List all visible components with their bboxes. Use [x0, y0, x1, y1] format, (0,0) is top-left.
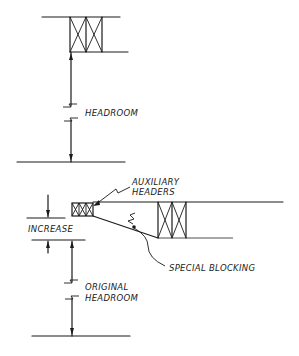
headroom-label: HEADROOM [85, 108, 138, 118]
increase-label: INCREASE [28, 224, 73, 234]
original-headroom-label-line2: HEADROOM [85, 293, 138, 303]
auxiliary-headers-label-line2: HEADERS [132, 187, 175, 197]
arrowhead-up-icon [46, 241, 50, 248]
arrowhead-down-icon [46, 210, 50, 217]
main-header-box [158, 202, 186, 238]
headroom-dimension-line [63, 52, 78, 162]
arrowhead-up-icon [70, 241, 74, 248]
bottom-header-section [27, 187, 283, 336]
break-mark [128, 213, 135, 224]
original-headroom-label-line1: ORIGINAL [85, 282, 129, 292]
special-blocking-slope [93, 216, 158, 238]
special-blocking-leader [134, 228, 165, 266]
auxiliary-header-box [72, 203, 93, 216]
arrowhead-down-icon [70, 328, 74, 335]
top-header-box [70, 17, 102, 52]
original-headroom-dimension-line [64, 241, 79, 336]
leader-arrowhead-icon [93, 200, 100, 206]
arrowhead-up-icon [69, 53, 73, 60]
blocking-dot-icon [132, 225, 136, 229]
headroom-diagram: HEADROOM AUXILIARY HEADERS INCREASE SPEC… [0, 0, 299, 356]
arrowhead-down-icon [69, 154, 73, 161]
auxiliary-headers-label-line1: AUXILIARY [132, 177, 179, 187]
special-blocking-label: SPECIAL BLOCKING [169, 263, 255, 273]
top-header-section [17, 17, 128, 162]
